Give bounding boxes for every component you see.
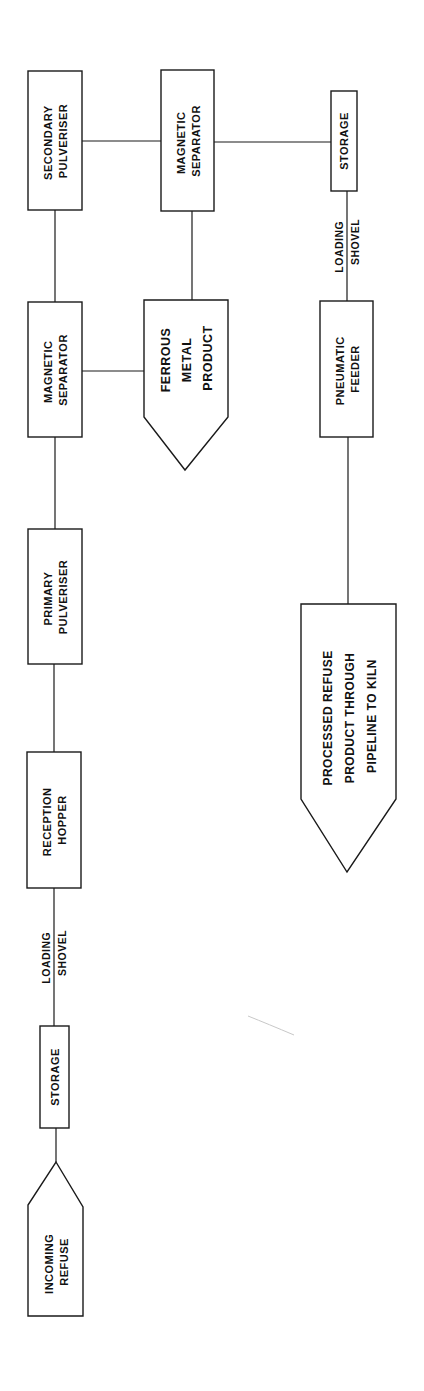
node-magnetic-separator-2: MAGNETIC SEPARATOR xyxy=(161,70,214,211)
node-incoming-refuse: INCOMING REFUSE xyxy=(28,1162,83,1316)
node-label-line: PULVERISER xyxy=(57,104,69,178)
node-label-line: MAGNETIC xyxy=(42,340,54,403)
node-storage-1: STORAGE xyxy=(40,1026,69,1128)
node-storage-2: STORAGE xyxy=(331,91,357,191)
edge-label-line: LOADING xyxy=(40,932,52,984)
node-label-line: SECONDARY xyxy=(42,105,54,180)
node-label-line: SEPARATOR xyxy=(190,105,202,177)
node-ferrous-metal-product: FERROUS METAL PRODUCT xyxy=(144,300,228,470)
node-pneumatic-feeder: PNEUMATIC FEEDER xyxy=(320,301,373,437)
svg-text:STORAGE: STORAGE xyxy=(49,1048,61,1106)
edge-label-line: SHOVEL xyxy=(56,930,68,976)
node-label-line: PIPELINE TO KILN xyxy=(365,659,379,773)
node-label-line: REFUSE xyxy=(58,1238,70,1286)
node-label-line: MAGNETIC xyxy=(175,111,187,174)
node-label-line: INCOMING xyxy=(43,1234,55,1294)
node-primary-pulveriser: PRIMARY PULVERISER xyxy=(28,529,82,664)
node-label-line: METAL xyxy=(180,338,194,382)
node-label-line: PRODUCT THROUGH xyxy=(343,653,357,784)
node-label-line: STORAGE xyxy=(49,1048,61,1106)
edge-label-line: LOADING xyxy=(333,221,345,273)
node-label-line: PULVERISER xyxy=(57,560,69,634)
node-label-line: PRODUCT xyxy=(201,325,215,390)
flow-diagram: SECONDARY PULVERISER MAGNETIC SEPARATOR … xyxy=(0,0,424,1391)
node-label-line: HOPPER xyxy=(56,795,68,844)
node-secondary-pulveriser: SECONDARY PULVERISER xyxy=(28,71,82,210)
node-label-line: PRIMARY xyxy=(42,572,54,626)
node-processed-refuse: PROCESSED REFUSE PRODUCT THROUGH PIPELIN… xyxy=(301,604,396,872)
node-label-line: RECEPTION xyxy=(41,787,53,856)
node-label-line: SEPARATOR xyxy=(57,334,69,406)
node-label-line: FERROUS xyxy=(159,328,173,393)
scan-artifact-mark xyxy=(248,1016,294,1035)
node-label-line: PROCESSED REFUSE xyxy=(321,650,335,785)
node-label-line: STORAGE xyxy=(338,112,350,170)
node-label-line: FEEDER xyxy=(349,345,361,393)
node-reception-hopper: RECEPTION HOPPER xyxy=(27,752,81,888)
svg-text:STORAGE: STORAGE xyxy=(338,112,350,170)
svg-text:PROCESSED REFUSE PRODUCT: PROCESSED REFUSE PRODUCT THROUGH PIPELIN… xyxy=(321,646,379,785)
svg-text:FERROUS METAL PROD: FERROUS METAL PRODUCT xyxy=(159,324,215,393)
node-magnetic-separator-1: MAGNETIC SEPARATOR xyxy=(28,302,82,437)
edge-label-line: SHOVEL xyxy=(349,219,361,265)
node-label-line: PNEUMATIC xyxy=(334,336,346,405)
